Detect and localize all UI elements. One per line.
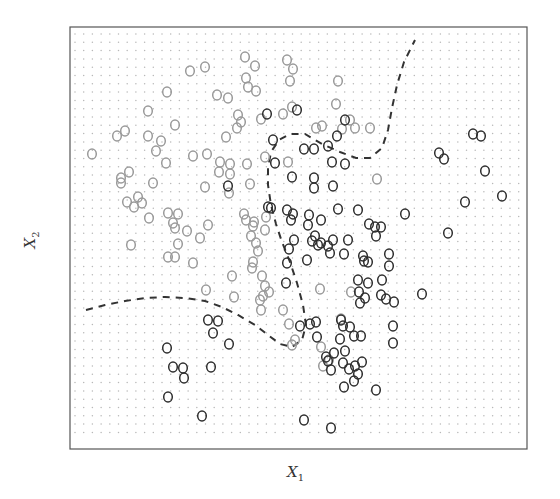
data-point-class-dark [300, 144, 309, 154]
data-point-class-dark [339, 358, 348, 368]
data-point-class-gray [144, 106, 153, 116]
data-point-class-gray [226, 169, 235, 179]
data-point-class-dark [389, 338, 398, 348]
data-point-class-dark [310, 144, 319, 154]
data-point-class-dark [385, 249, 394, 259]
data-point-class-gray [202, 285, 211, 295]
data-point-class-dark [304, 220, 313, 230]
data-point-class-gray [279, 305, 288, 315]
data-point-class-gray [286, 76, 295, 86]
data-point-class-dark [303, 255, 312, 265]
data-point-class-dark [305, 210, 314, 220]
data-point-class-dark [214, 316, 223, 326]
data-point-class-dark [389, 321, 398, 331]
data-point-class-gray [113, 131, 122, 141]
data-point-class-dark [328, 157, 337, 167]
data-point-class-gray [351, 123, 360, 133]
y-axis-label-sub: 2 [30, 231, 41, 237]
data-point-class-gray [222, 132, 231, 142]
data-point-class-dark [285, 244, 294, 254]
data-point-class-dark [377, 222, 386, 232]
data-point-class-gray [186, 66, 195, 76]
data-point-class-gray [183, 226, 192, 236]
data-point-class-gray [162, 158, 171, 168]
data-point-class-gray [246, 179, 255, 189]
data-point-class-dark [180, 373, 189, 383]
data-point-class-dark [461, 197, 470, 207]
data-point-class-dark [169, 362, 178, 372]
data-point-class-gray [261, 225, 270, 235]
data-point-class-dark [329, 181, 338, 191]
data-point-class-gray [247, 231, 256, 241]
data-point-class-gray [284, 157, 293, 167]
data-point-class-gray [318, 121, 327, 131]
data-point-class-gray [216, 157, 225, 167]
data-point-class-gray [257, 114, 266, 124]
data-point-class-gray [279, 109, 288, 119]
data-point-class-dark [341, 346, 350, 356]
data-point-class-dark [354, 275, 363, 285]
data-point-class-dark [288, 172, 297, 182]
data-point-class-gray [230, 292, 239, 302]
data-point-class-gray [174, 209, 183, 219]
data-point-class-dark [329, 235, 338, 245]
data-point-class-gray [243, 159, 252, 169]
data-point-class-dark [204, 315, 213, 325]
data-point-class-gray [157, 136, 166, 146]
data-point-class-gray [373, 174, 382, 184]
data-point-class-dark [333, 131, 342, 141]
data-point-class-gray [164, 208, 173, 218]
data-point-class-dark [327, 423, 336, 433]
data-point-class-dark [477, 131, 486, 141]
data-point-class-gray [171, 120, 180, 130]
data-point-class-gray [144, 131, 153, 141]
data-point-class-dark [341, 159, 350, 169]
data-point-class-gray [189, 258, 198, 268]
data-point-class-gray [312, 123, 321, 133]
data-point-class-gray [334, 76, 343, 86]
data-point-class-gray [215, 167, 224, 177]
data-point-class-dark [310, 173, 319, 183]
data-point-class-dark [418, 289, 427, 299]
y-axis-label-main: X [21, 238, 39, 249]
data-point-class-dark [263, 109, 272, 119]
data-point-class-dark [372, 385, 381, 395]
data-point-class-dark [390, 297, 399, 307]
data-point-class-gray [145, 213, 154, 223]
data-point-class-dark [163, 343, 172, 353]
data-point-class-gray [125, 167, 134, 177]
data-point-class-dark [401, 209, 410, 219]
data-point-class-dark [287, 215, 296, 225]
data-point-class-gray [174, 239, 183, 249]
data-point-class-dark [340, 382, 349, 392]
data-point-class-gray [258, 271, 267, 281]
data-point-class-dark [354, 205, 363, 215]
data-point-class-gray [127, 240, 136, 250]
data-point-class-dark [164, 392, 173, 402]
data-point-class-dark [317, 215, 326, 225]
data-point-class-dark [498, 191, 507, 201]
data-point-class-gray [189, 151, 198, 161]
data-point-class-dark [224, 181, 233, 191]
data-point-class-dark [327, 365, 336, 375]
data-point-class-dark [290, 235, 299, 245]
data-point-class-gray [213, 90, 222, 100]
data-point-class-dark [336, 334, 345, 344]
data-point-class-gray [317, 342, 326, 352]
data-point-class-gray [252, 86, 261, 96]
data-point-class-dark [444, 228, 453, 238]
data-point-class-gray [130, 202, 139, 212]
data-point-class-dark [310, 183, 319, 193]
data-point-class-gray [241, 52, 250, 62]
x-axis-label-main: X [287, 463, 298, 481]
data-point-class-dark [209, 328, 218, 338]
data-point-class-dark [440, 154, 449, 164]
data-point-class-dark [313, 332, 322, 342]
data-point-class-dark [269, 135, 278, 145]
data-point-class-gray [261, 152, 270, 162]
y-axis-label: X2 [21, 231, 41, 248]
data-point-class-gray [196, 233, 205, 243]
data-point-class-dark [385, 261, 394, 271]
data-point-class-gray [240, 209, 249, 219]
data-point-class-dark [435, 148, 444, 158]
